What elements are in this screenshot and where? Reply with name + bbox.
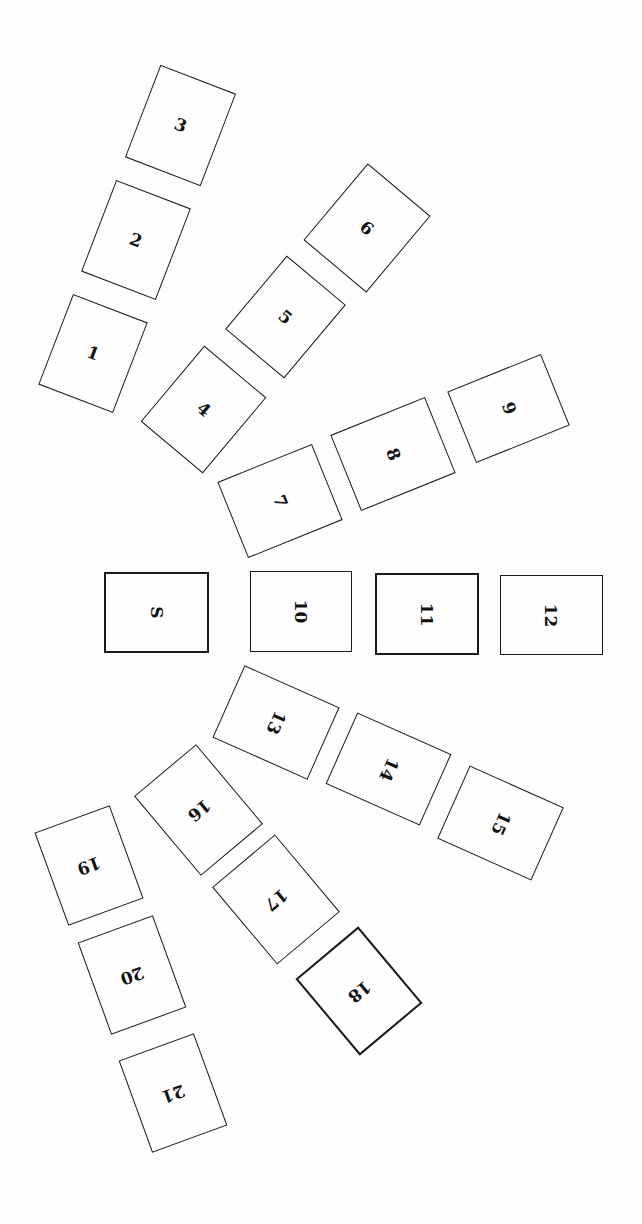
card-11: 11 <box>375 573 479 655</box>
card-label: 15 <box>487 809 512 838</box>
card-label: 3 <box>171 115 188 135</box>
card-label: 20 <box>118 963 146 987</box>
card-17: 17 <box>212 834 340 964</box>
card-16: 16 <box>134 744 263 876</box>
card-6: 6 <box>303 163 430 292</box>
card-label: 2 <box>127 230 144 250</box>
card-label: 1 <box>84 343 101 363</box>
card-3: 3 <box>124 64 235 185</box>
card-label: 8 <box>383 445 403 462</box>
card-2: 2 <box>81 180 191 300</box>
card-label: S <box>148 606 165 618</box>
card-7: 7 <box>217 444 342 558</box>
card-label: 16 <box>183 796 212 824</box>
card-label: 7 <box>270 492 290 509</box>
card-14: 14 <box>325 712 451 825</box>
card-label: 12 <box>542 603 559 627</box>
card-label: 18 <box>344 977 373 1005</box>
card-s: S <box>104 572 209 653</box>
seating-diagram: 1 2 3 4 5 6 7 8 9 S 10 11 12 13 14 15 16… <box>0 0 642 1224</box>
card-label: 19 <box>75 853 103 877</box>
card-12: 12 <box>500 575 603 655</box>
card-label: 5 <box>275 307 295 328</box>
card-label: 21 <box>159 1081 187 1105</box>
card-15: 15 <box>437 766 564 881</box>
card-label: 6 <box>357 218 377 239</box>
card-label: 9 <box>498 399 518 416</box>
card-label: 14 <box>375 755 400 784</box>
card-4: 4 <box>140 345 266 473</box>
card-label: 10 <box>292 599 309 623</box>
card-9: 9 <box>447 353 569 462</box>
card-label: 11 <box>418 602 435 626</box>
card-8: 8 <box>330 397 455 511</box>
card-5: 5 <box>225 255 346 378</box>
card-20: 20 <box>78 915 187 1034</box>
card-19: 19 <box>34 805 143 925</box>
card-label: 4 <box>193 399 213 420</box>
card-label: 17 <box>261 885 290 913</box>
card-10: 10 <box>250 571 352 652</box>
card-label: 13 <box>263 708 288 737</box>
card-21: 21 <box>119 1033 228 1152</box>
card-1: 1 <box>38 293 147 412</box>
card-18: 18 <box>295 926 422 1055</box>
card-13: 13 <box>212 665 339 779</box>
